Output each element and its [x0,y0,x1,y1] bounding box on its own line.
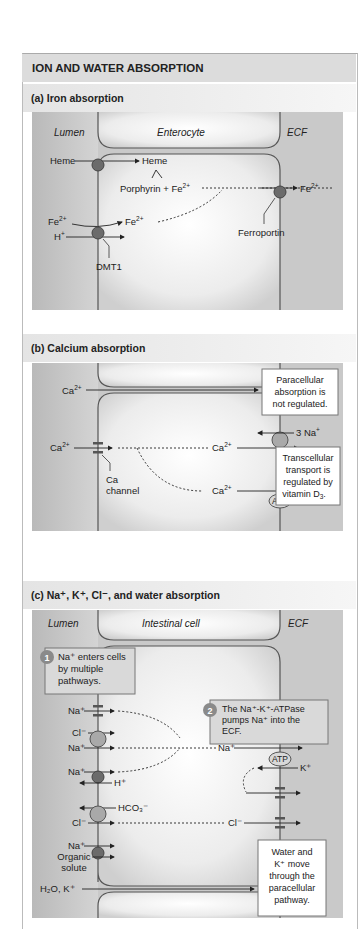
dmt1-transporter [92,227,104,239]
na-ca-exchanger [272,432,288,448]
svg-text:Cl⁻: Cl⁻ [72,727,86,738]
cl-hco3-exchanger [90,806,106,822]
calcium-absorption-panel: Ca2+ Paracellularabsorption isnot regula… [32,363,343,531]
svg-text:Na⁺: Na⁺ [68,742,85,753]
svg-text:Heme: Heme [142,155,167,166]
intestinal-cell-label: Intestinal cell [142,618,201,629]
sodium-water-absorption-diagram: Lumen Intestinal cell ECF 1 Na⁺ enters c… [32,610,343,918]
svg-text:Na⁺: Na⁺ [68,766,85,777]
na-h-exchanger [92,771,104,783]
enterocyte-label: Enterocyte [157,127,205,138]
svg-text:1: 1 [44,653,49,663]
svg-text:H₂O, K⁺: H₂O, K⁺ [40,883,75,894]
figure-title: ION AND WATER ABSORPTION [22,54,356,82]
svg-text:Na⁺: Na⁺ [218,742,235,753]
lumen-label: Lumen [48,618,79,629]
svg-text:Cl⁻: Cl⁻ [228,817,242,828]
iron-absorption-diagram: Lumen Enterocyte ECF Heme Heme Porphyrin… [32,112,343,310]
ferroportin-transporter [274,186,286,198]
svg-text:ATP: ATP [272,754,288,764]
iron-absorption-panel: Lumen Enterocyte ECF Heme Heme Porphyrin… [32,112,343,310]
lumen-label: Lumen [54,127,85,138]
svg-text:K⁺: K⁺ [300,762,311,773]
section-b-title: (b) Calcium absorption [23,334,356,362]
svg-text:3 Na+: 3 Na+ [296,426,320,438]
svg-text:Water andK⁺ movethrough thepar: Water andK⁺ movethrough theparacellularp… [269,847,316,905]
ferroportin-label: Ferroportin [238,227,284,238]
section-a-title: (a) Iron absorption [23,84,356,112]
svg-text:2: 2 [207,706,212,716]
svg-text:Porphyrin + Fe2+: Porphyrin + Fe2+ [120,182,190,194]
svg-text:Na⁺: Na⁺ [68,840,85,851]
calcium-absorption-diagram: Ca2+ Paracellularabsorption isnot regula… [32,363,343,531]
section-c-title: (c) Na⁺, K⁺, Cl⁻, and water absorption [23,581,356,609]
svg-text:Organicsolute: Organicsolute [57,851,91,873]
ecf-label: ECF [288,618,309,629]
heme-transporter [92,159,104,171]
dmt1-label: DMT1 [96,261,122,272]
svg-text:Cl⁻: Cl⁻ [72,817,86,828]
svg-text:H⁺: H⁺ [114,777,126,788]
svg-text:Na⁺: Na⁺ [68,705,85,716]
ecf-label: ECF [287,127,308,138]
svg-text:Paracellularabsorption isnot r: Paracellularabsorption isnot regulated. [272,375,327,409]
svg-text:Heme: Heme [50,155,75,166]
na-cl-cotransporter [90,731,106,747]
svg-text:HCO₃⁻: HCO₃⁻ [118,802,148,813]
sodium-water-absorption-panel: Lumen Intestinal cell ECF 1 Na⁺ enters c… [32,610,343,918]
svg-text:Fe2+: Fe2+ [300,182,319,194]
